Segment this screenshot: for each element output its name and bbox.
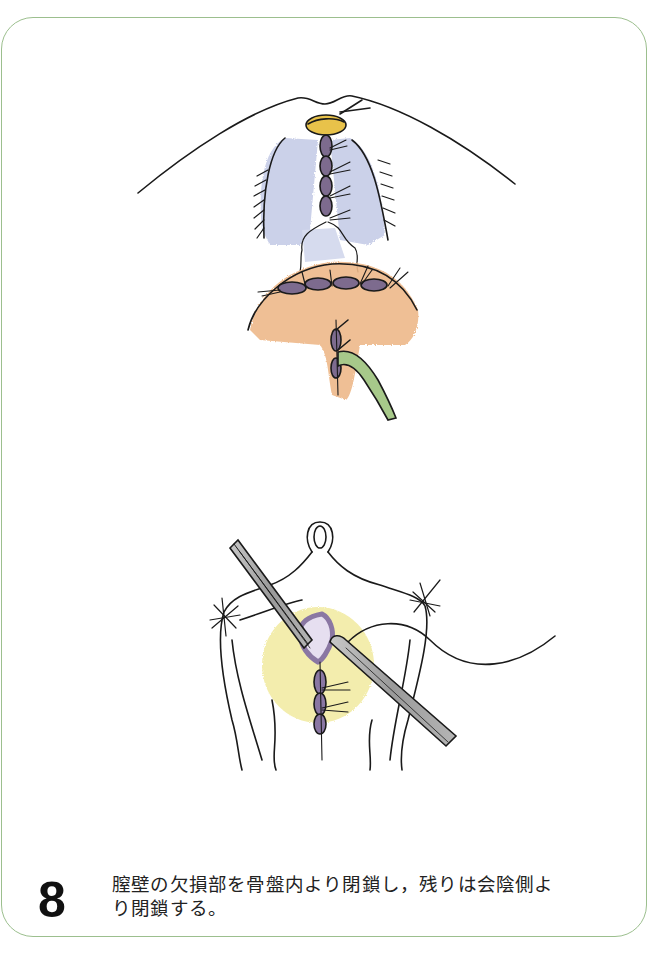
surgical-illustration xyxy=(0,0,652,955)
caption-line-1: 膣壁の欠損部を骨盤内より閉鎖し，残りは会陰側よ xyxy=(112,873,637,897)
caption-line-2: り閉鎖する。 xyxy=(112,897,637,921)
lower-illustration xyxy=(210,522,555,770)
step-number: 8 xyxy=(38,872,66,928)
figure-caption: 膣壁の欠損部を骨盤内より閉鎖し，残りは会陰側よ り閉鎖する。 xyxy=(112,873,637,921)
upper-illustration xyxy=(138,96,515,420)
